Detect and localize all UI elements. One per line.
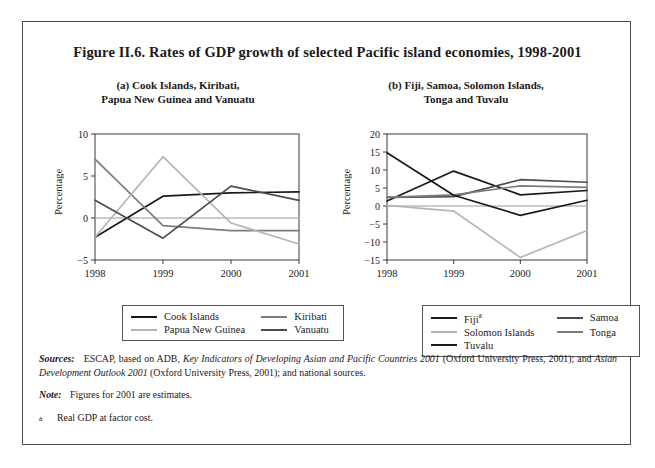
panel-a-subtitle-line1: (a) Cook Islands, Kiribati, [53,79,303,93]
panel-a-subtitle: (a) Cook Islands, Kiribati, Papua New Gu… [53,79,303,106]
legend-swatch-icon [431,331,457,333]
sources-note: Sources: ESCAP, based on ADB, Key Indica… [39,352,617,379]
y-tick-label: 10 [78,129,88,140]
y-tick-label: 15 [370,147,380,158]
legend-label: Vanuatu [294,324,328,335]
x-tick-label: 2001 [577,268,598,279]
x-tick-label: 1999 [153,268,174,279]
legend-label: Fijia [464,311,482,325]
legend-label: Papua New Guinea [164,324,245,335]
legend-swatch-icon [431,317,457,319]
x-tick-label: 1999 [443,268,464,279]
y-tick-label: −5 [369,219,380,230]
legend-panel-b: FijiaSamoaSolomon IslandsTongaTuvalu [422,305,640,357]
y-tick-label: −5 [77,255,88,266]
legend-label: Tonga [590,327,616,338]
x-tick-label: 1998 [85,268,106,279]
legend-footnote-marker: a [479,311,482,320]
y-axis-label-b: Percentage [341,142,352,242]
y-tick-label: 0 [83,213,88,224]
figure-notes: Sources: ESCAP, based on ADB, Key Indica… [39,352,617,425]
y-tick-label: 10 [370,165,380,176]
y-tick-label: 0 [375,201,380,212]
x-tick-label: 2001 [289,268,310,279]
legend-swatch-icon [431,344,457,346]
footnote-text: Real GDP at factor cost. [57,411,153,426]
x-tick-label: 2000 [221,268,242,279]
sources-text-3: (Oxford University Press, 2001); and nat… [150,367,366,378]
panel-b-subtitle-line1: (b) Fiji, Samoa, Solomon Islands, [341,79,591,93]
sources-italic-1: Key Indicators of Developing Asian and P… [183,353,440,364]
legend-swatch-icon [131,316,157,318]
legend-label: Solomon Islands [464,327,534,338]
legend-item-solomon-islands[interactable]: Solomon Islands [431,327,547,338]
legend-item-kiribati[interactable]: Kiribati [261,311,335,322]
footnote-marker: a [39,411,57,426]
x-tick-label: 2000 [510,268,531,279]
series-line-solomon-islands [387,205,587,257]
y-axis-label-a: Percentage [53,142,64,242]
y-tick-label: −15 [364,255,380,266]
chart-a-svg: −505101998199920002001 [69,120,319,300]
legend-item-cook-islands[interactable]: Cook Islands [131,311,251,322]
legend-item-papua-new-guinea[interactable]: Papua New Guinea [131,324,251,335]
x-tick-label: 1998 [377,268,398,279]
legend-item-fiji[interactable]: Fijia [431,311,547,325]
legend-item-vanuatu[interactable]: Vanuatu [261,324,335,335]
legend-swatch-icon [557,331,583,333]
panel-b-subtitle-line2: Tonga and Tuvalu [341,93,591,107]
legend-label: Cook Islands [164,311,219,322]
legend-item-tonga[interactable]: Tonga [557,327,631,338]
y-tick-label: 20 [370,129,380,140]
note-text: Figures for 2001 are estimates. [70,389,192,400]
note-label: Note: [39,389,61,400]
legend-swatch-icon [261,329,287,331]
sources-text-2: (Oxford University Press, 2001); and [443,353,592,364]
legend-label: Samoa [590,312,619,323]
legend-item-samoa[interactable]: Samoa [557,311,631,325]
legend-label: Kiribati [294,311,327,322]
y-tick-label: −10 [364,237,380,248]
legend-label: Tuvalu [464,340,493,351]
figure-frame: Figure II.6. Rates of GDP growth of sele… [22,21,631,445]
sources-label: Sources: [39,353,75,364]
legend-panel-a: Cook IslandsKiribatiPapua New GuineaVanu… [122,305,344,341]
y-tick-label: 5 [375,183,380,194]
footnote-a: a Real GDP at factor cost. [39,411,617,426]
panel-b-subtitle: (b) Fiji, Samoa, Solomon Islands, Tonga … [341,79,591,106]
legend-item-tuvalu[interactable]: Tuvalu [431,340,547,351]
y-tick-label: 5 [83,171,88,182]
legend-swatch-icon [131,329,157,331]
page-title: Figure II.6. Rates of GDP growth of sele… [23,44,632,61]
sources-text-1: ESCAP, based on ADB, [84,353,180,364]
panel-a-subtitle-line2: Papua New Guinea and Vanuatu [53,93,303,107]
chart-b-svg: −15−10−5051015201998199920002001 [357,120,607,300]
legend-swatch-icon [557,317,583,319]
general-note: Note: Figures for 2001 are estimates. [39,388,617,402]
legend-swatch-icon [261,316,287,318]
